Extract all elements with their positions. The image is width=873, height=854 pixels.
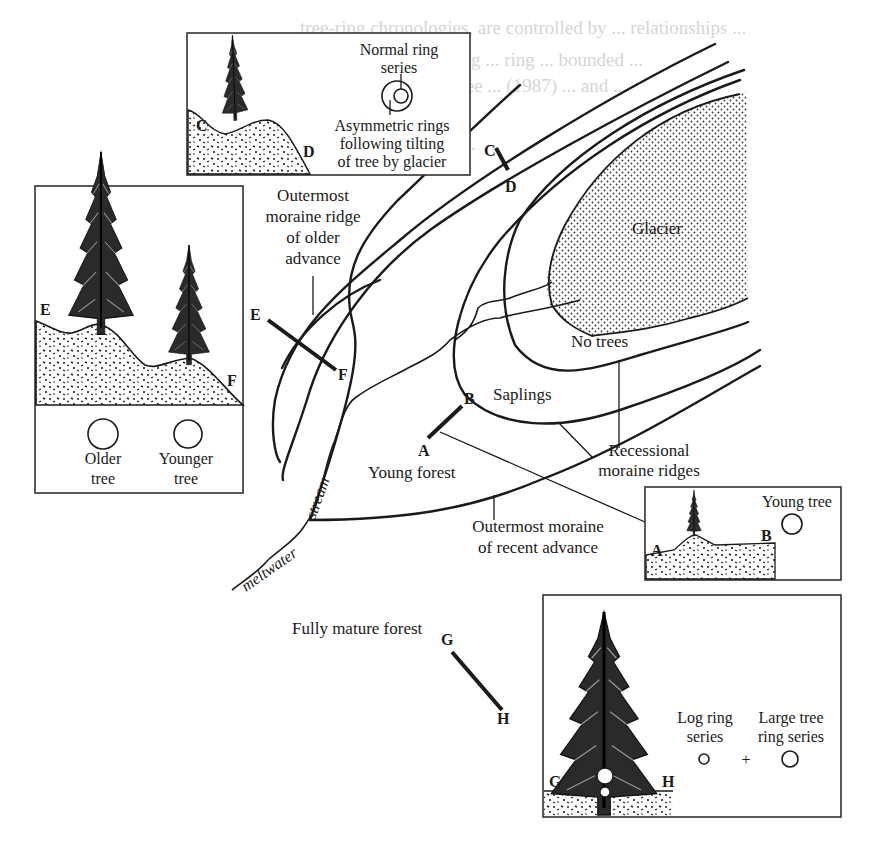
outermost-older-advance-label: Outermost moraine ridge of older advance (266, 186, 361, 268)
inset-g-h: G H Log ring series Large tree ring seri… (543, 595, 841, 817)
fully-mature-forest-label: Fully mature forest (292, 619, 423, 638)
transect-letter-d: D (505, 178, 517, 195)
inset-cd-letter-c: C (196, 117, 208, 134)
recessional-moraine-ridges-label: Recessional moraine ridges (598, 441, 700, 480)
svg-text:Large tree: Large tree (759, 709, 824, 727)
svg-text:moraine ridge: moraine ridge (266, 207, 361, 226)
transect-letter-e: E (250, 306, 261, 323)
svg-text:ring series: ring series (758, 728, 824, 746)
transect-letter-b: B (464, 390, 475, 407)
plus-sign: + (741, 751, 750, 768)
svg-text:Younger: Younger (159, 450, 214, 468)
transect-a-b (428, 406, 462, 438)
glacier-area (547, 92, 748, 336)
buried-log-icon (600, 787, 610, 797)
inset-cd-letter-d: D (303, 143, 315, 160)
transect-letter-c: C (484, 142, 496, 159)
no-trees-label: No trees (571, 332, 628, 351)
inset-gh-letter-h: H (662, 773, 675, 790)
inset-gh-letter-g: G (549, 773, 562, 790)
young-forest-label: Young forest (368, 463, 456, 482)
glacier-label: Glacier (632, 219, 682, 238)
glacier-dendrochronology-diagram: tree-ring chronologies, are controlled b… (0, 0, 873, 854)
inset-ef-letter-f: F (227, 372, 237, 389)
svg-text:tree: tree (91, 470, 115, 487)
inset-c-d: C D Normal ring series Asymmetric rings … (187, 33, 470, 175)
svg-text:moraine ridges: moraine ridges (598, 461, 700, 480)
svg-text:tree: tree (174, 470, 198, 487)
transect-letter-a: A (418, 442, 430, 459)
log-ring-cross-section-icon (597, 768, 613, 784)
young-tree-label: Young tree (762, 493, 832, 511)
inset-ef-letter-e: E (40, 301, 51, 318)
stream-label: stream (302, 475, 333, 521)
svg-text:Normal ring: Normal ring (360, 41, 439, 59)
inset-ab-letter-a: A (651, 542, 663, 559)
svg-text:series: series (381, 59, 417, 76)
asymmetric-rings-label: Asymmetric rings following tilting of tr… (334, 117, 449, 171)
transect-g-h (452, 652, 502, 710)
saplings-label: Saplings (493, 385, 552, 404)
svg-text:Outermost: Outermost (277, 186, 349, 205)
large-tree-ring-series-label: Large tree ring series (758, 709, 824, 746)
svg-text:of older: of older (286, 228, 340, 247)
svg-text:Asymmetric rings: Asymmetric rings (334, 117, 449, 135)
transect-letter-g: G (441, 631, 454, 648)
inset-ab-letter-b: B (761, 527, 772, 544)
meltwater-label: meltwater (238, 543, 301, 594)
transect-e-f (268, 320, 336, 370)
transect-letter-h: H (497, 710, 510, 727)
svg-text:Older: Older (85, 450, 122, 467)
svg-text:Log ring: Log ring (677, 709, 733, 727)
svg-text:following tilting: following tilting (340, 135, 444, 153)
svg-text:of tree by glacier: of tree by glacier (338, 153, 448, 171)
svg-text:of recent advance: of recent advance (478, 538, 598, 557)
svg-text:Recessional: Recessional (608, 441, 689, 460)
svg-text:advance: advance (285, 249, 341, 268)
leader-recessional-b (558, 422, 593, 458)
transect-letter-f: F (338, 366, 348, 383)
svg-text:Outermost moraine: Outermost moraine (472, 517, 604, 536)
svg-text:series: series (687, 728, 723, 745)
outermost-recent-advance-label: Outermost moraine of recent advance (472, 517, 604, 557)
inset-a-b: A B Young tree (645, 487, 841, 580)
inset-e-f: E F Older tree Younger tree (35, 152, 243, 493)
